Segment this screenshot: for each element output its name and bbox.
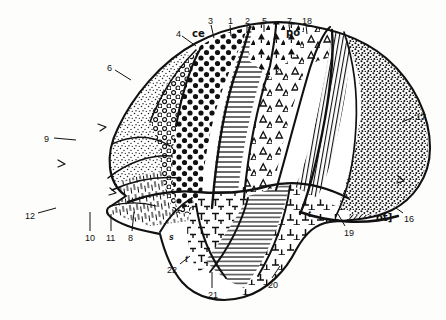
map-label-t: t bbox=[185, 255, 188, 264]
arrow-mark-1 bbox=[58, 160, 65, 167]
map-label-22: 22 bbox=[167, 266, 177, 275]
map-label-s: s bbox=[169, 233, 174, 242]
brain-cytoarchitectonic-figure: 4ce3125718po691210118s22212019ot]1617tt bbox=[0, 0, 446, 320]
map-label-1: 1 bbox=[228, 17, 233, 26]
map-label-9: 9 bbox=[44, 135, 49, 144]
map-label-3: 3 bbox=[208, 17, 213, 26]
map-label-6: 6 bbox=[107, 64, 112, 73]
leader-16 bbox=[396, 208, 403, 213]
map-label-t: t bbox=[308, 210, 311, 219]
map-label-19: 19 bbox=[344, 229, 354, 238]
map-label-8: 8 bbox=[128, 234, 133, 243]
map-label-4: 4 bbox=[176, 30, 181, 39]
map-label-12: 12 bbox=[25, 212, 35, 221]
map-label-10: 10 bbox=[85, 234, 95, 243]
map-label-17: 17 bbox=[416, 113, 426, 122]
map-label-18: 18 bbox=[302, 17, 312, 26]
map-label-11: 11 bbox=[106, 234, 115, 243]
map-label-7: 7 bbox=[287, 17, 292, 26]
arrow-mark-3 bbox=[98, 124, 106, 131]
map-label-16: 16 bbox=[404, 215, 414, 224]
map-label-20: 20 bbox=[268, 281, 278, 290]
brain-map-drawing bbox=[0, 0, 446, 320]
leader-9 bbox=[54, 138, 76, 140]
map-label-21: 21 bbox=[208, 291, 218, 300]
brain-regions-group bbox=[0, 0, 446, 320]
map-label-po: po bbox=[286, 28, 300, 38]
map-label-ce: ce bbox=[192, 29, 205, 39]
map-label-ot: ot] bbox=[376, 213, 392, 223]
map-label-5: 5 bbox=[262, 17, 267, 26]
map-label-2: 2 bbox=[245, 17, 250, 26]
leader-6 bbox=[115, 70, 131, 80]
leader-12 bbox=[38, 208, 56, 213]
